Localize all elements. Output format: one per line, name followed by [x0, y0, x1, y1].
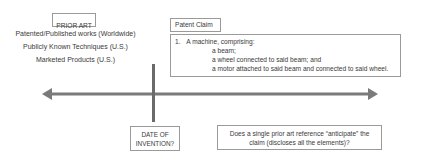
prior-art-item: Marketed Products (U.S.) [10, 56, 141, 63]
question-line1: Does a single prior art reference “antic… [218, 129, 381, 138]
arrow-right-head [368, 88, 378, 100]
arrow-left-head [42, 88, 52, 100]
claim-element: a beam; [175, 46, 396, 55]
patent-claim-title: Patent Claim [175, 21, 213, 28]
patent-claim-box: 1. A machine, comprising: a beam; a whee… [170, 34, 401, 77]
claim-element: a motor attached to said beam and connec… [175, 64, 396, 73]
claim-number: 1. [175, 38, 181, 45]
anticipation-question-box: Does a single prior art reference “antic… [217, 125, 382, 150]
prior-art-title: PRIOR ART [56, 22, 91, 29]
claim-lead-line: 1. A machine, comprising: [175, 37, 396, 46]
date-of-invention-box: DATE OF INVENTION? [130, 126, 180, 151]
date-label-line2: INVENTION? [131, 139, 179, 148]
claim-element: a wheel connected to said beam; and [175, 55, 396, 64]
prior-art-item: Patented/Published works (Worldwide) [10, 30, 141, 37]
question-line2: claim (discloses all the elements)? [218, 138, 381, 147]
date-label-line1: DATE OF [131, 130, 179, 139]
prior-art-item: Publicly Known Techniques (U.S.) [10, 43, 141, 50]
prior-art-title-box: PRIOR ART [52, 13, 96, 27]
claim-lead: A machine, comprising: [186, 38, 254, 45]
patent-claim-title-box: Patent Claim [170, 18, 221, 32]
